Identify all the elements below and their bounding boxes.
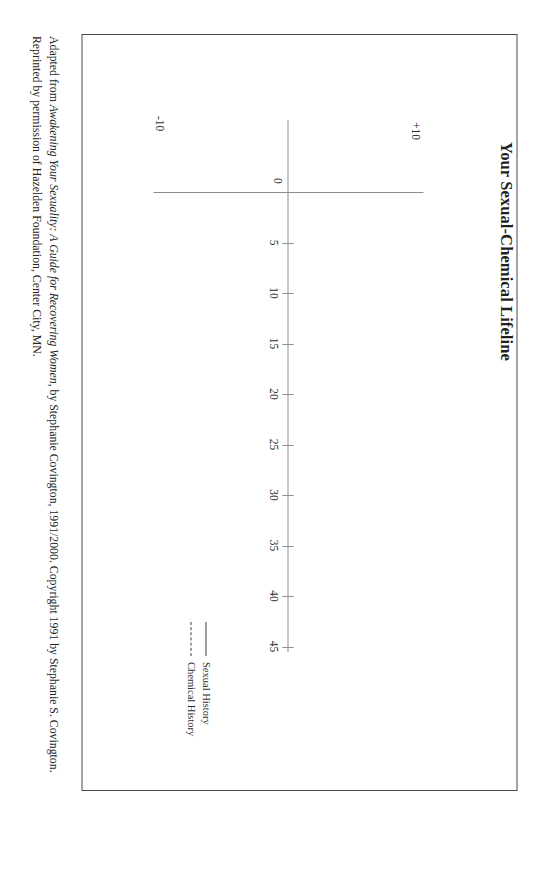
y-axis-line bbox=[153, 192, 423, 193]
x-axis-tick bbox=[282, 546, 293, 547]
x-axis-tick bbox=[282, 394, 293, 395]
x-axis-tick-label: 40 bbox=[267, 590, 279, 602]
scanned-page: Your Sexual-Chemical Lifeline 5101520253… bbox=[0, 0, 553, 872]
x-axis-tick bbox=[282, 495, 293, 496]
legend-item: Sexual History bbox=[198, 622, 213, 736]
page-sheet: Your Sexual-Chemical Lifeline 5101520253… bbox=[0, 0, 553, 872]
x-axis-tick bbox=[282, 344, 293, 345]
x-axis-tick bbox=[282, 647, 293, 648]
x-axis-tick-label: 30 bbox=[267, 489, 279, 501]
citation-prefix: Adapted from bbox=[46, 36, 60, 105]
legend-item-label: Sexual History bbox=[200, 662, 211, 725]
solid-line-icon bbox=[205, 622, 206, 656]
x-axis-tick-label: 25 bbox=[267, 439, 279, 451]
x-axis-tick bbox=[282, 445, 293, 446]
citation-book-title: Awakening Your Sexuality: A Guide for Re… bbox=[46, 105, 60, 384]
page-title: Your Sexual-Chemical Lifeline bbox=[495, 142, 515, 361]
citation-line-1: Adapted from Awakening Your Sexuality: A… bbox=[44, 36, 61, 796]
citation-suffix: , by Stephanie Covington, 1991/2000. Cop… bbox=[46, 384, 60, 773]
citation-line-2: Reprinted by permission of Hazelden Foun… bbox=[27, 36, 44, 796]
y-axis-label-zero: 0 bbox=[271, 178, 283, 184]
legend-item-label: Chemical History bbox=[185, 662, 196, 736]
x-axis-tick bbox=[282, 596, 293, 597]
x-axis-tick bbox=[282, 243, 293, 244]
dashed-line-icon bbox=[190, 622, 191, 656]
x-axis-tick-label: 10 bbox=[267, 287, 279, 299]
x-axis-tick-label: 15 bbox=[267, 338, 279, 350]
x-axis-tick-label: 35 bbox=[267, 540, 279, 552]
source-citation: Adapted from Awakening Your Sexuality: A… bbox=[27, 36, 61, 796]
y-axis-label-minus-ten: -10 bbox=[153, 116, 165, 131]
x-axis-line bbox=[287, 120, 288, 652]
chart-legend: Sexual HistoryChemical History bbox=[183, 622, 213, 736]
x-axis-tick bbox=[282, 293, 293, 294]
x-axis-tick-label: 20 bbox=[267, 388, 279, 400]
lifeline-chart: 51015202530354045 +10 0 -10 bbox=[153, 120, 423, 680]
x-axis-tick-label: 5 bbox=[267, 240, 279, 246]
x-axis-tick-label: 45 bbox=[267, 641, 279, 653]
legend-item: Chemical History bbox=[183, 622, 198, 736]
y-axis-label-plus-ten: +10 bbox=[409, 122, 421, 140]
